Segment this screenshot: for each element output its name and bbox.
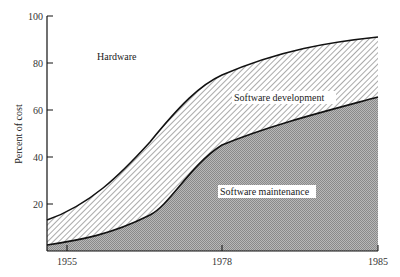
y-tick-label: 40 [33, 152, 43, 163]
hardware-label: Hardware [97, 51, 137, 62]
x-tick-label: 1985 [368, 256, 388, 267]
software-development-label: Software development [234, 92, 324, 103]
y-tick-label: 80 [33, 58, 43, 69]
software-maintenance-label: Software maintenance [220, 186, 310, 197]
y-ticks [47, 16, 53, 204]
y-tick-label: 100 [28, 11, 43, 22]
chart-canvas: 100 80 60 40 20 1955 1978 1985 Percent o… [0, 0, 400, 277]
y-axis-title: Percent of cost [13, 104, 24, 164]
x-tick-label: 1955 [57, 256, 77, 267]
x-tick-label: 1978 [212, 256, 232, 267]
y-tick-label: 60 [33, 105, 43, 116]
y-tick-label: 20 [33, 199, 43, 210]
